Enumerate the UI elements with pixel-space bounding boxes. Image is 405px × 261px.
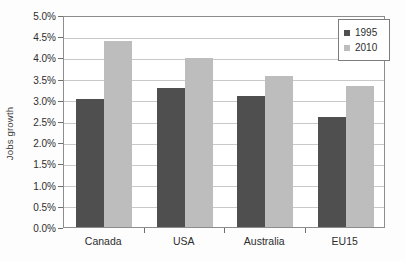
y-axis-tick-mark <box>58 228 63 229</box>
bar-eu15-2010 <box>346 86 374 227</box>
y-axis-title-text: Jobs growth <box>5 106 16 159</box>
y-axis-tick-label: 4.0% <box>12 53 56 64</box>
y-axis-tick-label: 2.5% <box>12 117 56 128</box>
y-axis-tick-label: 2.0% <box>12 138 56 149</box>
bar-usa-2010 <box>185 58 213 227</box>
legend-item-label: 2010 <box>355 43 377 53</box>
bar-australia-1995 <box>237 96 265 227</box>
bar-chart: Jobs growth 0.0%0.5%1.0%1.5%2.0%2.5%3.0%… <box>0 0 405 261</box>
y-axis-tick-label: 4.5% <box>12 32 56 43</box>
chart-legend: 1995 2010 <box>338 19 390 61</box>
plot-area <box>63 16 385 228</box>
x-axis-tick-mark <box>305 228 306 233</box>
y-axis-tick-label: 0.0% <box>12 223 56 234</box>
bar-canada-1995 <box>76 99 104 227</box>
legend-item-label: 1995 <box>355 28 377 38</box>
gridline <box>64 38 384 39</box>
y-axis-tick-label: 1.0% <box>12 180 56 191</box>
y-axis-tick-label: 1.5% <box>12 159 56 170</box>
bar-canada-2010 <box>104 41 132 227</box>
y-axis-tick-label: 0.5% <box>12 201 56 212</box>
legend-item[interactable]: 1995 <box>344 25 385 40</box>
legend-swatch-icon <box>344 30 350 36</box>
y-axis-tick-label: 3.5% <box>12 74 56 85</box>
y-axis-tick-label: 5.0% <box>12 11 56 22</box>
bar-usa-1995 <box>157 88 185 227</box>
x-axis-tick-label: EU15 <box>332 235 358 247</box>
x-axis-tick-mark <box>144 228 145 233</box>
bar-australia-2010 <box>265 76 293 227</box>
x-axis-tick-label: Australia <box>244 235 285 247</box>
x-axis-tick-label: Canada <box>85 235 122 247</box>
bar-eu15-1995 <box>318 117 346 227</box>
legend-swatch-icon <box>344 45 350 51</box>
y-axis-tick-label: 3.0% <box>12 95 56 106</box>
legend-item[interactable]: 2010 <box>344 40 385 55</box>
x-axis-tick-label: USA <box>173 235 195 247</box>
x-axis-tick-mark <box>224 228 225 233</box>
